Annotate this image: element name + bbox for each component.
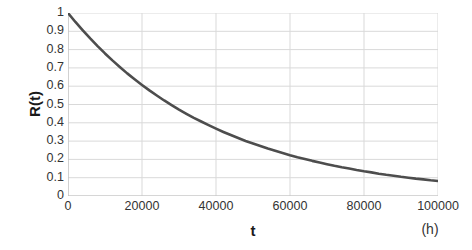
y-tick-label: 0.8 (34, 43, 64, 56)
y-tick-label: 0.6 (34, 79, 64, 92)
horizontal-gridlines (68, 13, 438, 196)
plot-svg (68, 13, 438, 196)
x-tick-label: 0 (65, 199, 72, 213)
y-tick-label: 0.9 (34, 24, 64, 37)
x-axis-title: t (188, 222, 318, 239)
y-tick-label: 0.2 (34, 152, 64, 165)
x-axis-tick-labels: 020000400006000080000100000 (0, 199, 472, 217)
y-tick-label: 0.5 (34, 98, 64, 111)
series-line-rt (68, 13, 438, 181)
y-tick-label: 0.4 (34, 116, 64, 129)
y-tick-label: 0.7 (34, 61, 64, 74)
y-tick-label: 0.3 (34, 134, 64, 147)
x-tick-label: 80000 (347, 199, 382, 213)
reliability-decay-chart: R(t) 00.10.20.30.40.50.60.70.80.91 02000… (0, 0, 472, 250)
y-axis-tick-labels: 00.10.20.30.40.50.60.70.80.91 (34, 7, 64, 199)
x-tick-label: 100000 (417, 199, 459, 213)
plot-area (68, 13, 438, 196)
x-tick-label: 20000 (125, 199, 160, 213)
y-tick-label: 0.1 (34, 171, 64, 184)
x-tick-label: 60000 (273, 199, 308, 213)
x-tick-label: 40000 (199, 199, 234, 213)
y-tick-label: 1 (34, 6, 64, 19)
x-axis-unit-label: (h) (400, 221, 460, 237)
